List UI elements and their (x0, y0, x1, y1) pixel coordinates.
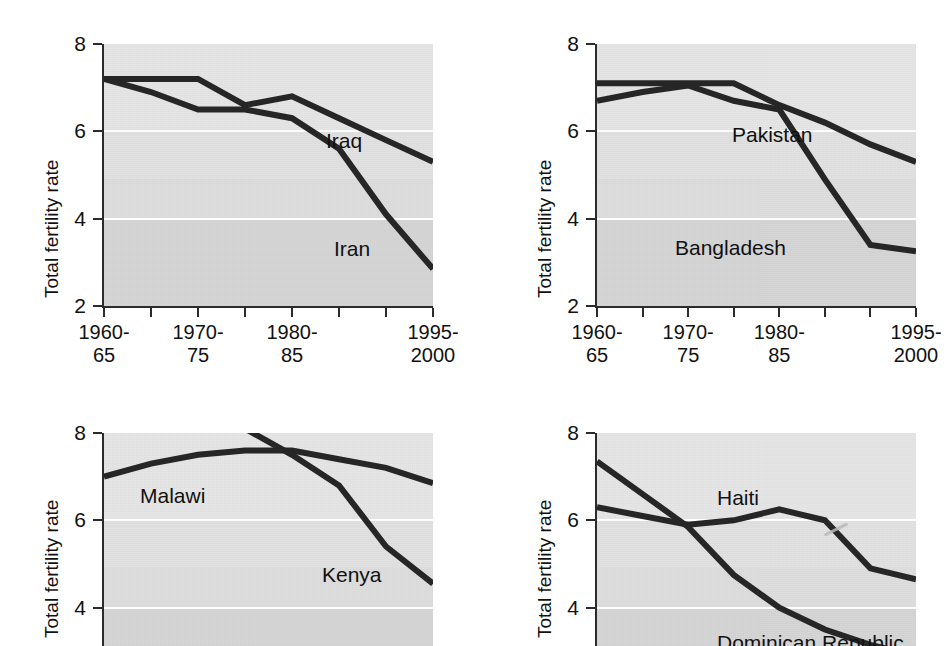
y-tick-4 (586, 607, 595, 609)
y-tick-label-6: 6 (551, 509, 579, 530)
y-axis-title: Total fertility rate (535, 500, 554, 638)
plot-area: HaitiDominican Republic (597, 433, 916, 646)
series-line-haiti (597, 507, 916, 579)
series-label-dominican-republic: Dominican Republic (717, 632, 904, 646)
y-tick-8 (586, 432, 595, 434)
y-tick-label-4: 4 (551, 597, 579, 618)
y-tick-6 (586, 519, 595, 521)
series-label-haiti: Haiti (717, 487, 759, 508)
y-tick-label-8: 8 (551, 422, 579, 443)
series-layer (597, 433, 916, 646)
y-axis-line (595, 433, 597, 646)
